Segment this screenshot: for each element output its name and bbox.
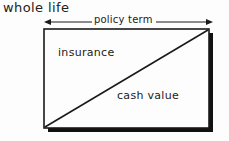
arrowhead-right-icon bbox=[206, 19, 213, 25]
region-label-cash-value: cash value bbox=[117, 89, 179, 102]
arrowhead-left-icon bbox=[44, 19, 51, 25]
region-label-insurance: insurance bbox=[58, 46, 114, 59]
policy-term-label: policy term bbox=[92, 14, 155, 25]
whole-life-diagram: whole life policy term insurance cash va… bbox=[0, 0, 229, 141]
